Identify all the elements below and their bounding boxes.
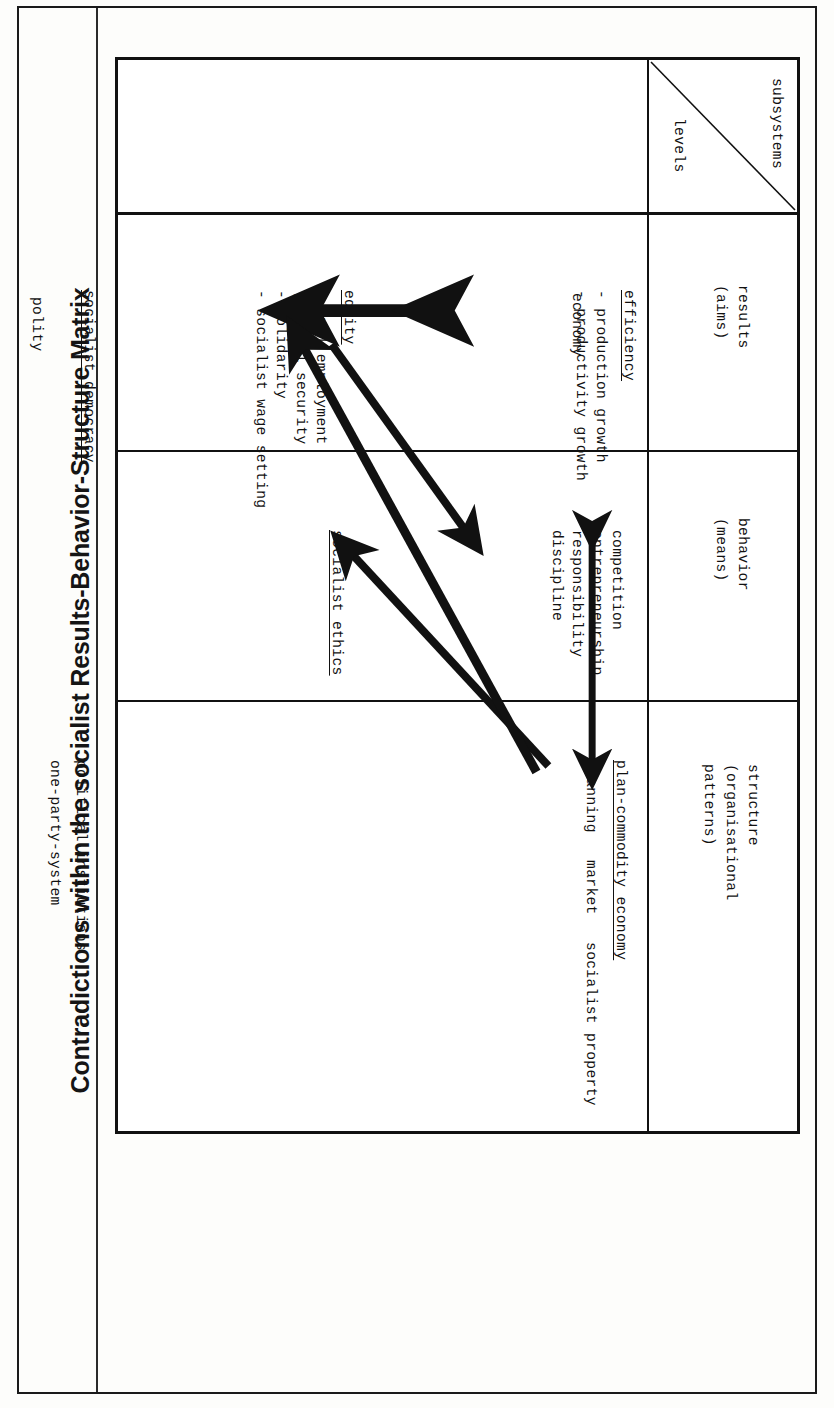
row-label-results-line2: (aims) — [712, 285, 730, 340]
row-label-behavior-line2: (means) — [712, 518, 730, 582]
cell-structure-polity: political instiutions one-party-system — [0, 760, 107, 1090]
matrix-table: subsystems levels results (aims) behavio… — [115, 57, 800, 1134]
row-label-structure-line2: (organisational — [722, 764, 740, 901]
cell-results-society: equity - full employment - social securi… — [107, 290, 367, 540]
cell-behavior-economy: competition entrepreneurship responsibil… — [367, 530, 647, 710]
cell-results-society-item-0: - full employment — [312, 290, 330, 445]
cell-results-polity: socialist democracy — [0, 290, 107, 550]
row-label-structure: structure (organisational patterns) — [649, 702, 797, 1132]
scanned-page: Contradictions within the socialist Resu… — [0, 0, 834, 1408]
cell-behavior-society: socialist ethics — [207, 530, 367, 780]
cell-behavior-polity — [0, 530, 107, 780]
corner-levels-label: levels — [670, 118, 688, 173]
row-label-structure-line1: structure — [744, 764, 762, 846]
cell-behavior-society-heading: socialist ethics — [328, 530, 346, 676]
cell-behavior-economy-item-1: entrepreneurship — [588, 530, 606, 676]
cell-behavior-economy-item-2: responsibility — [568, 530, 586, 657]
cell-structure-economy-heading: plan-commodity economy — [612, 760, 630, 960]
row-label-structure-line3: patterns) — [700, 764, 718, 846]
corner-cell: subsystems levels — [649, 60, 797, 212]
cell-structure-polity-item-0: political instiutions — [72, 760, 90, 951]
corner-subsystems-label: subsystems — [768, 78, 786, 169]
cell-structure-economy-item-0: planning market socialist property — [582, 760, 600, 1106]
cell-behavior-economy-item-0: competition — [608, 530, 626, 630]
cell-results-society-item-2: - solidarity — [272, 290, 290, 399]
cell-results-society-item-3: - socialist wage setting — [252, 290, 270, 508]
cell-results-economy-item-1: - productivity growth — [572, 290, 590, 481]
results-behavior-structure-matrix: subsystems levels results (aims) behavio… — [115, 57, 800, 1134]
cell-behavior-economy-item-3: discipline — [548, 530, 566, 621]
cell-structure-polity-item-1: one-party-system — [46, 760, 64, 906]
cell-structure-economy: plan-commodity economy planning market s… — [347, 760, 647, 1090]
cell-results-society-item-1: - social security — [292, 290, 310, 445]
row-label-results-line1: results — [734, 285, 752, 349]
cell-results-economy-heading: efficiency — [620, 290, 638, 381]
cell-results-economy: efficiency - production growth - product… — [367, 290, 647, 450]
cell-results-economy-item-0: - production growth — [592, 290, 610, 463]
row-label-results: results (aims) — [649, 215, 797, 448]
cell-results-society-heading: equity — [340, 290, 358, 345]
cell-results-polity-heading: socialist democracy — [80, 290, 98, 463]
cell-structure-society — [207, 760, 367, 1010]
row-label-behavior-line1: behavior — [734, 518, 752, 591]
row-label-behavior: behavior (means) — [649, 452, 797, 698]
